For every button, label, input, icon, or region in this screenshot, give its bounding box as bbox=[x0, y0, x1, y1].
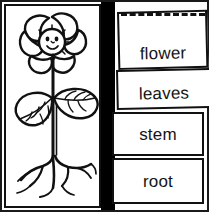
worksheet-sheet: flower leaves stem root bbox=[0, 0, 209, 212]
label-card-root[interactable]: root bbox=[112, 158, 204, 204]
label-card-stem[interactable]: stem bbox=[112, 112, 204, 156]
label-text-root: root bbox=[143, 173, 173, 190]
dashed-cut-line bbox=[121, 13, 205, 16]
flowering-plant-drawing bbox=[5, 6, 101, 208]
label-text-leaves: leaves bbox=[139, 84, 190, 102]
label-card-leaves[interactable]: leaves bbox=[116, 68, 209, 110]
illustration-panel bbox=[4, 4, 101, 208]
label-column: flower leaves stem root bbox=[112, 2, 209, 210]
label-text-stem: stem bbox=[139, 126, 177, 143]
label-text-flower: flower bbox=[140, 44, 187, 62]
label-card-flower[interactable]: flower bbox=[117, 10, 208, 70]
